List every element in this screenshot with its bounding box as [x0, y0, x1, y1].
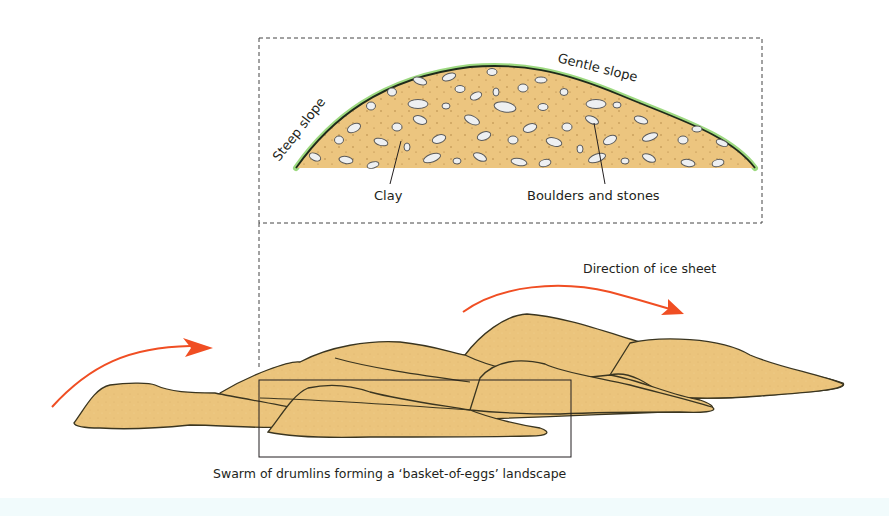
landscape-caption: Swarm of drumlins forming a ‘basket-of-e… [213, 466, 567, 481]
drumlin-diagram: Steep slope Gentle slope Clay Boulders a… [0, 0, 889, 516]
arrow-head-icon [183, 338, 213, 357]
drumlin-landscape: Direction of ice sheet Swarm of drumlins… [52, 261, 844, 481]
ice-direction-arrow-right [463, 286, 684, 315]
direction-label: Direction of ice sheet [583, 261, 716, 276]
boulders-label: Boulders and stones [527, 188, 660, 203]
clay-label: Clay [374, 188, 403, 203]
drumlin-cross-section [296, 66, 755, 168]
